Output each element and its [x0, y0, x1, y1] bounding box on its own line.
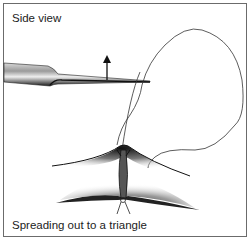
suture-illustration: [0, 0, 252, 242]
view-caption: Side view: [12, 12, 61, 24]
step-caption: Spreading out to a triangle: [12, 219, 147, 231]
up-arrow-icon: [103, 55, 111, 80]
lower-wound-edge: [56, 178, 200, 210]
forceps-icon: [4, 63, 150, 86]
suture-loop-icon: [117, 29, 243, 168]
